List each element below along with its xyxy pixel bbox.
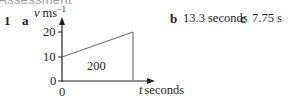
y-axis-arrow-icon (59, 17, 65, 25)
y-tick-label-20: 20 (43, 25, 56, 39)
velocity-time-graph: vms−1 20 10 0 0 200 tseconds (0, 0, 290, 99)
y-axis-label: vms−1 (34, 5, 66, 20)
area-label: 200 (87, 59, 106, 73)
y-tick-label-0: 0 (50, 74, 56, 88)
x-axis-label: tseconds (139, 83, 184, 97)
x-origin-label: 0 (59, 85, 65, 99)
velocity-line (62, 32, 133, 57)
y-tick-label-10: 10 (43, 50, 56, 64)
